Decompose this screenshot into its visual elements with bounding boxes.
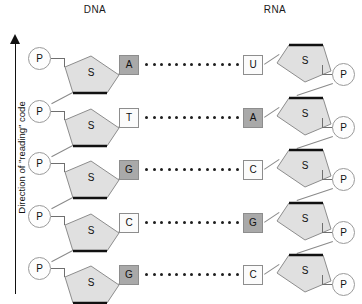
dna-sugar-label: S bbox=[62, 120, 120, 131]
dna-phosphate: P bbox=[28, 205, 51, 228]
rna-sugar: S bbox=[276, 201, 334, 241]
dna-sugar: S bbox=[62, 160, 120, 200]
base-pair-row: PSAUSP bbox=[0, 40, 362, 94]
base-pair-row: PSTASP bbox=[0, 93, 362, 147]
hydrogen-bond-dots bbox=[145, 273, 239, 276]
rna-phosphate: P bbox=[332, 168, 355, 191]
dna-sugar: S bbox=[62, 55, 120, 95]
rna-sugar: S bbox=[276, 253, 334, 293]
dna-column-header: DNA bbox=[55, 4, 135, 15]
hydrogen-bond-dots bbox=[145, 116, 239, 119]
dna-sugar-label: S bbox=[62, 172, 120, 183]
rna-phosphate: P bbox=[332, 116, 355, 139]
rna-base: C bbox=[243, 265, 263, 285]
dna-sugar: S bbox=[62, 265, 120, 304]
rna-base: G bbox=[243, 213, 263, 233]
dna-rna-base-pairing-diagram: DNA RNA Direction of "reading" code PSAU… bbox=[0, 0, 362, 304]
rna-sugar: S bbox=[276, 148, 334, 188]
dna-phosphate: P bbox=[28, 47, 51, 70]
dna-sugar-label: S bbox=[62, 67, 120, 78]
rna-phosphate: P bbox=[332, 273, 355, 296]
base-pair-row: PSGCSP bbox=[0, 145, 362, 199]
rna-phosphate: P bbox=[332, 221, 355, 244]
dna-base: A bbox=[119, 55, 139, 75]
rna-sugar-label: S bbox=[276, 108, 334, 119]
rna-sugar-label: S bbox=[276, 55, 334, 66]
rna-sugar: S bbox=[276, 96, 334, 136]
rna-sugar-label: S bbox=[276, 213, 334, 224]
dna-sugar: S bbox=[62, 213, 120, 253]
rna-sugar-label: S bbox=[276, 265, 334, 276]
rna-base: U bbox=[243, 55, 263, 75]
dna-sugar-label: S bbox=[62, 225, 120, 236]
rna-column-header: RNA bbox=[235, 4, 315, 15]
dna-sugar: S bbox=[62, 108, 120, 148]
rna-phosphate: P bbox=[332, 63, 355, 86]
dna-sugar-label: S bbox=[62, 277, 120, 288]
dna-phosphate: P bbox=[28, 100, 51, 123]
hydrogen-bond-dots bbox=[145, 168, 239, 171]
dna-phosphate: P bbox=[28, 257, 51, 280]
rna-sugar-label: S bbox=[276, 160, 334, 171]
rna-sugar: S bbox=[276, 43, 334, 83]
hydrogen-bond-dots bbox=[145, 221, 239, 224]
dna-base: T bbox=[119, 108, 139, 128]
dna-base: G bbox=[119, 265, 139, 285]
base-pair-row: PSCGSP bbox=[0, 198, 362, 252]
rna-base: A bbox=[243, 108, 263, 128]
hydrogen-bond-dots bbox=[145, 63, 239, 66]
base-pair-row: PSGCSP bbox=[0, 250, 362, 304]
dna-phosphate: P bbox=[28, 152, 51, 175]
dna-base: C bbox=[119, 213, 139, 233]
rna-base: C bbox=[243, 160, 263, 180]
dna-base: G bbox=[119, 160, 139, 180]
